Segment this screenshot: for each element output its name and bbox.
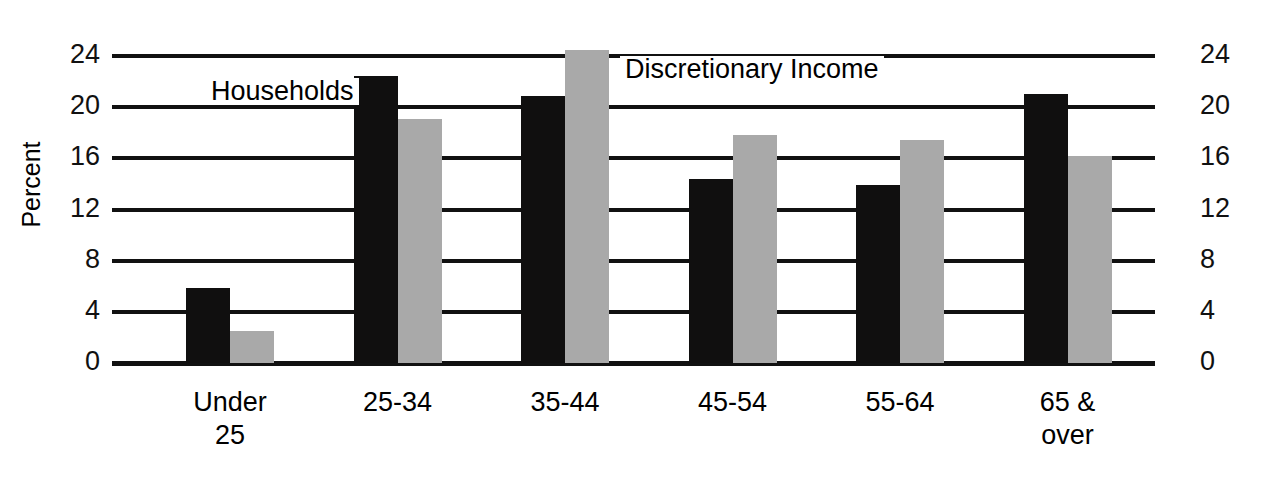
- x-axis-category-label: 45-54: [638, 386, 828, 419]
- series-label-households: Households: [206, 78, 359, 105]
- bar-chart: Percent 04812162024 04812162024 Househol…: [0, 0, 1277, 477]
- bar-discretionary-income: [1068, 156, 1112, 363]
- x-axis-category-label: 65 & over: [973, 386, 1163, 452]
- bar-households: [354, 76, 398, 363]
- bar-discretionary-income: [900, 140, 944, 363]
- bar-households: [689, 179, 733, 363]
- bar-discretionary-income: [565, 50, 609, 363]
- bar-discretionary-income: [733, 135, 777, 363]
- bar-households: [1024, 94, 1068, 363]
- bar-households: [856, 185, 900, 363]
- bar-households: [521, 96, 565, 363]
- bar-discretionary-income: [398, 119, 442, 363]
- series-label-discretionary-income: Discretionary Income: [620, 56, 884, 83]
- bar-households: [186, 288, 230, 363]
- bar-discretionary-income: [230, 331, 274, 363]
- x-axis-category-label: 25-34: [303, 386, 493, 419]
- x-axis-category-label: Under 25: [135, 386, 325, 452]
- x-axis-category-label: 35-44: [470, 386, 660, 419]
- x-axis-category-label: 55-64: [805, 386, 995, 419]
